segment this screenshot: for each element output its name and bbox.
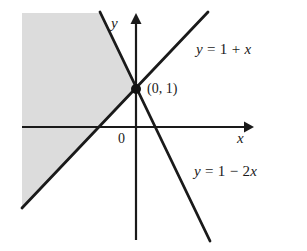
intersection-point-label: (0, 1) — [147, 82, 177, 96]
origin-label: 0 — [118, 132, 125, 146]
y-axis-arrowhead — [131, 13, 142, 24]
figure-container: y x 0 (0, 1) y = 1 + x y = 1 − 2x — [0, 0, 307, 251]
y-axis-label: y — [111, 16, 118, 31]
shaded-region — [22, 13, 136, 208]
intersection-point-marker — [131, 84, 141, 94]
graph-canvas — [0, 0, 307, 251]
x-axis-label: x — [237, 131, 244, 146]
x-axis-arrowhead — [244, 122, 254, 133]
line-label-y-equals-1-plus-x: y = 1 + x — [196, 42, 251, 57]
line-label-y-equals-1-minus-2x: y = 1 − 2x — [194, 164, 257, 179]
